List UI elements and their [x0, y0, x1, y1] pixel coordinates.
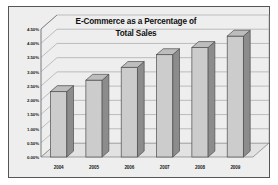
x-tick-label-2007: 2007: [160, 165, 170, 170]
x-tick-label-2009: 2009: [230, 165, 240, 170]
chart-frame: 0.00%0.50%1.00%1.50%2.00%2.50%3.00%3.50%…: [8, 6, 270, 178]
chart-title: E-Commerce as a Percentage ofTotal Sales: [61, 16, 211, 39]
x-tick-label-2005: 2005: [89, 165, 99, 170]
x-tick-label-2006: 2006: [124, 165, 134, 170]
chart-title-line-1: E-Commerce as a Percentage of: [61, 16, 211, 28]
x-tick-label-2004: 2004: [54, 165, 64, 170]
x-tick-label-2008: 2008: [195, 165, 205, 170]
chart-title-line-2: Total Sales: [61, 28, 211, 40]
